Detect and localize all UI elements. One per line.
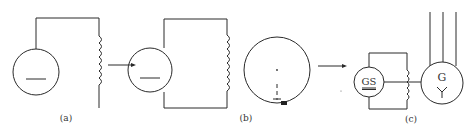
source-circle	[13, 49, 59, 95]
coil-icon	[227, 35, 230, 91]
generator-label: G	[438, 71, 447, 84]
panel-b-rotor	[244, 37, 310, 105]
wire-top	[36, 18, 99, 49]
source-circle	[128, 48, 172, 92]
wire-bottom	[164, 91, 227, 108]
arrow-right-icon	[108, 63, 136, 67]
wire-bottom	[369, 97, 407, 109]
panel-a-circuit	[13, 18, 102, 108]
wye-symbol-icon	[437, 87, 447, 92]
panel-label-b: (b)	[240, 113, 253, 123]
circuit-diagram: GS G (a) (b) (c)	[0, 0, 476, 133]
coil-icon	[407, 70, 409, 100]
contact-block	[281, 101, 287, 105]
wire-top	[369, 53, 407, 70]
panel-c-circuit: GS G	[354, 12, 463, 109]
coil-icon	[99, 36, 102, 85]
panel-label-a: (a)	[60, 113, 72, 123]
panel-label-c: (c)	[405, 114, 417, 124]
arrow-right-icon	[318, 64, 347, 68]
speck	[340, 90, 341, 91]
panel-b-circuit	[128, 19, 230, 108]
center-dot	[276, 69, 278, 71]
exciter-label: GS	[362, 76, 377, 87]
wire-top	[164, 19, 227, 48]
